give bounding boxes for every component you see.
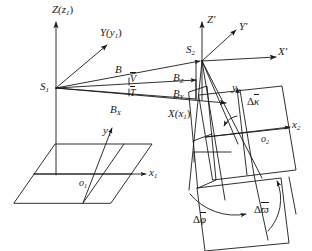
label-delta-omega: Δϖ	[254, 204, 269, 215]
axis-y1-image	[83, 128, 112, 203]
label-origin-1: o1	[79, 178, 87, 189]
label-delta-kappa: Δκ	[247, 96, 259, 107]
label-station-2: S2	[186, 44, 195, 57]
label-angle-v: V	[130, 74, 136, 84]
label-origin-2: o2	[261, 134, 269, 145]
axis-y-world	[56, 45, 107, 88]
label-baseline-by-sub: Y	[180, 93, 184, 100]
label-origin-2-sub: 2	[266, 138, 269, 145]
label-station-2-sub: 2	[192, 49, 195, 56]
label-axis-z-prime: Z'	[207, 14, 215, 25]
label-axis-y1: y1	[103, 125, 111, 138]
label-baseline-bx: BX	[110, 104, 121, 117]
label-axis-z-world: Z(z1)	[52, 4, 73, 17]
reference-segment	[194, 152, 231, 162]
label-axis-y2-sub: 2	[237, 87, 240, 94]
label-axis-y-world: Y(y1)	[100, 27, 122, 40]
label-axis-x2-sub: 2	[297, 124, 300, 131]
label-baseline-bz-sub: Z	[180, 77, 184, 84]
axis-x-prime	[202, 57, 276, 61]
label-delta-phi: Δφ	[193, 214, 206, 225]
label-angle-t: T	[130, 88, 136, 98]
left-image-plane	[14, 144, 152, 203]
figure-root: Z(z1) Y(y1) X(x1) S1 S2 B V T BX BZ BY Z…	[0, 0, 312, 251]
label-baseline-bz: BZ	[173, 72, 184, 85]
label-axis-x-world: X(x1)	[168, 108, 190, 121]
label-axis-y2: y2	[232, 82, 240, 95]
label-axis-x1: x1	[149, 167, 157, 180]
label-baseline: B	[115, 64, 122, 75]
label-axis-x2: x2	[292, 119, 300, 132]
axis-y-prime	[202, 30, 236, 61]
axis-x2-image	[206, 127, 290, 137]
label-axis-x-prime: X'	[278, 46, 287, 57]
label-station-1: S1	[40, 81, 49, 94]
label-origin-1-sub: 1	[84, 182, 87, 189]
label-axis-y-prime: Y'	[239, 21, 247, 32]
label-axis-y1-sub: 1	[108, 130, 111, 137]
label-axis-x1-sub: 1	[154, 172, 157, 179]
projection-rays	[189, 61, 262, 200]
label-station-1-sub: 1	[46, 86, 49, 93]
label-baseline-by: BY	[173, 88, 184, 101]
angle-arc-omega	[268, 181, 281, 231]
label-baseline-bx-sub: X	[117, 109, 121, 116]
